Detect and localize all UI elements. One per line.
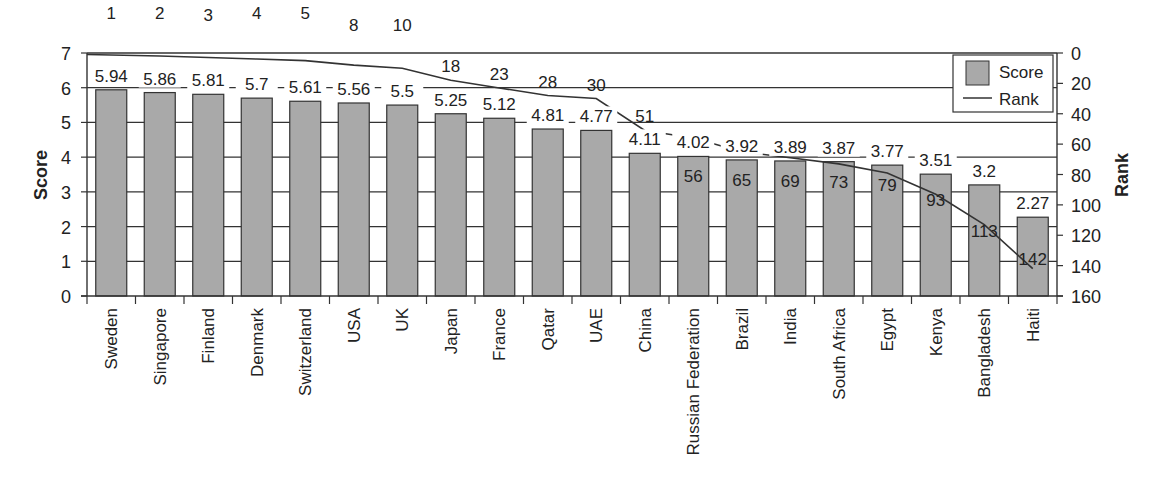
rank-label: 79	[878, 176, 897, 195]
y-axis-title: Score	[31, 150, 51, 200]
y2-axis-title: Rank	[1112, 152, 1132, 197]
score-label: 3.51	[919, 151, 952, 170]
score-label: 3.2	[972, 162, 996, 181]
score-label: 5.61	[289, 78, 322, 97]
rank-label: 30	[587, 76, 606, 95]
rank-label: 2	[155, 4, 164, 23]
rank-label: 5	[301, 4, 310, 23]
rank-label: 10	[393, 16, 412, 35]
category-label: Haiti	[1024, 308, 1043, 342]
rank-label: 93	[926, 191, 945, 210]
category-label: France	[490, 308, 509, 361]
y2-tick-label: 140	[1071, 257, 1101, 277]
score-label: 3.89	[774, 138, 807, 157]
bar	[581, 130, 612, 296]
rank-label: 1	[107, 4, 116, 23]
score-label: 4.11	[629, 130, 661, 149]
category-label: Japan	[442, 308, 461, 354]
score-label: 2.27	[1016, 194, 1049, 213]
y2-tick-label: 160	[1071, 287, 1101, 307]
bar	[532, 129, 563, 296]
category-label: Qatar	[539, 308, 558, 351]
score-label: 5.56	[337, 80, 370, 99]
legend-score-label: Score	[999, 63, 1043, 82]
category-label: Russian Federation	[684, 308, 703, 455]
category-label: China	[636, 307, 655, 352]
y-tick-label: 3	[61, 183, 71, 203]
score-label: 5.86	[143, 70, 176, 89]
rank-label: 8	[349, 16, 358, 35]
score-label: 5.81	[192, 71, 225, 90]
rank-label: 28	[538, 73, 557, 92]
bar	[435, 114, 466, 296]
category-label: Egypt	[878, 308, 897, 352]
score-label: 5.5	[390, 82, 414, 101]
category-label: Switzerland	[296, 308, 315, 396]
y-tick-label: 6	[61, 79, 71, 99]
score-label: 4.02	[677, 133, 710, 152]
data-labels: 5.945.865.815.75.615.565.55.255.124.814.…	[90, 4, 1054, 269]
rank-label: 3	[204, 6, 213, 25]
y2-tick-label: 120	[1071, 226, 1101, 246]
score-label: 3.92	[725, 137, 758, 156]
category-label: Denmark	[248, 308, 267, 377]
y2-tick-label: 40	[1071, 105, 1091, 125]
score-label: 5.25	[434, 91, 467, 110]
score-label: 4.81	[531, 106, 564, 125]
bar	[338, 103, 369, 296]
category-label: Finland	[199, 308, 218, 364]
category-label: Brazil	[733, 308, 752, 351]
category-label: Sweden	[102, 308, 121, 369]
category-label: South Africa	[830, 307, 849, 399]
y-tick-label: 2	[61, 218, 71, 238]
legend-rank-label: Rank	[999, 90, 1039, 109]
y2-tick-label: 60	[1071, 135, 1091, 155]
rank-label: 113	[971, 222, 998, 241]
category-label: Kenya	[927, 307, 946, 356]
bar	[241, 98, 272, 296]
category-label: India	[781, 307, 800, 344]
bar	[629, 153, 660, 296]
score-label: 5.12	[483, 95, 516, 114]
bar	[387, 105, 418, 296]
category-label: USA	[345, 307, 364, 343]
rank-label: 142	[1019, 250, 1047, 269]
bar	[96, 90, 127, 296]
y2-tick-label: 20	[1071, 74, 1091, 94]
score-label: 5.7	[245, 75, 269, 94]
score-label: 3.87	[822, 139, 855, 158]
rank-label: 65	[732, 171, 751, 190]
rank-label: 69	[781, 172, 800, 191]
rank-label: 4	[252, 4, 261, 23]
category-label: UAE	[587, 308, 606, 343]
y2-tick-label: 80	[1071, 166, 1091, 186]
bar	[144, 93, 175, 296]
rank-label: 23	[490, 65, 509, 84]
y-tick-label: 4	[61, 148, 71, 168]
y2-tick-label: 0	[1071, 44, 1081, 64]
rank-label: 56	[684, 167, 703, 186]
chart: 01234567020406080100120140160 5.945.865.…	[0, 0, 1156, 492]
y2-tick-label: 100	[1071, 196, 1101, 216]
rank-label: 51	[635, 107, 654, 126]
rank-label: 18	[441, 57, 460, 76]
legend-score-swatch	[966, 61, 989, 85]
legend: Score Rank	[953, 55, 1053, 112]
category-label: Singapore	[151, 308, 170, 386]
score-label: 4.77	[580, 107, 613, 126]
category-label: UK	[393, 307, 412, 331]
bar	[484, 118, 515, 296]
score-label: 3.77	[871, 142, 904, 161]
y-tick-label: 7	[61, 44, 71, 64]
category-labels: SwedenSingaporeFinlandDenmarkSwitzerland…	[102, 307, 1043, 455]
y-tick-label: 0	[61, 287, 71, 307]
y-tick-label: 5	[61, 113, 71, 133]
y-tick-label: 1	[61, 252, 71, 272]
rank-label: 73	[829, 173, 848, 192]
bar	[290, 101, 321, 296]
bar	[193, 94, 224, 296]
grid-lines	[87, 53, 1057, 261]
bars	[96, 90, 1049, 296]
category-label: Bangladesh	[975, 308, 994, 398]
score-label: 5.94	[95, 67, 128, 86]
